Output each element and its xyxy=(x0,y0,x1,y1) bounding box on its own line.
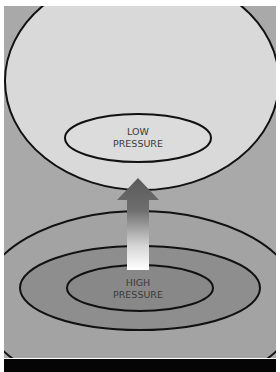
low-pressure-label-line1: LOW xyxy=(127,126,149,137)
pressure-diagram: LOW PRESSURE HIGH PRESSURE xyxy=(4,6,276,358)
high-pressure-label-line2: PRESSURE xyxy=(113,289,163,300)
high-pressure-label-line1: HIGH xyxy=(126,277,150,288)
bottom-bar xyxy=(4,359,276,372)
low-pressure-label-line2: PRESSURE xyxy=(113,138,163,149)
high-pressure-inner-isobar xyxy=(67,265,213,311)
